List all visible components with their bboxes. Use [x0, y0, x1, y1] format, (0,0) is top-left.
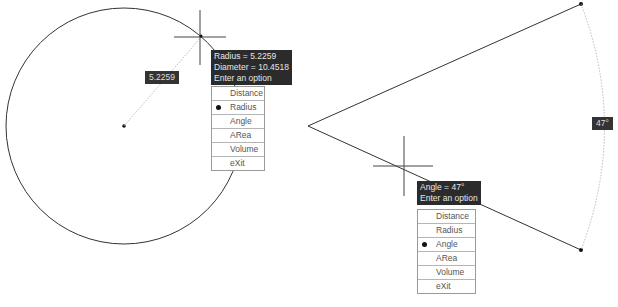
tooltip-line: Radius = 5.2259: [214, 51, 289, 62]
tooltip-line: Angle = 47°: [420, 182, 478, 193]
selected-bullet-icon: [422, 242, 427, 247]
tooltip-line: Enter an option: [214, 73, 289, 84]
selected-bullet-icon: [216, 105, 221, 110]
measure-options-menu: Distance Radius Angle ARea Volume eXit: [417, 209, 476, 294]
angle-tooltip: Angle = 47° Enter an option: [417, 181, 481, 205]
angle-dimension-label: 47°: [592, 117, 613, 130]
menu-item-distance[interactable]: Distance: [418, 210, 475, 223]
radius-dimension-label: 5.2259: [145, 71, 179, 84]
menu-item-area[interactable]: ARea: [418, 251, 475, 265]
menu-item-distance[interactable]: Distance: [212, 87, 264, 100]
menu-item-exit[interactable]: eXit: [212, 156, 264, 170]
pick-point: [200, 35, 203, 38]
menu-item-area[interactable]: ARea: [212, 128, 264, 142]
tooltip-line: Enter an option: [420, 193, 478, 204]
menu-item-radius[interactable]: Radius: [418, 223, 475, 237]
drawing-canvas[interactable]: [0, 0, 618, 307]
menu-item-angle[interactable]: Angle: [212, 114, 264, 128]
menu-item-volume[interactable]: Volume: [418, 265, 475, 279]
measure-options-menu: Distance Radius Angle ARea Volume eXit: [211, 86, 265, 171]
menu-item-angle[interactable]: Angle: [418, 237, 475, 251]
angle-upper-line: [308, 4, 581, 126]
angle-endpoint-bottom: [579, 248, 583, 252]
menu-item-exit[interactable]: eXit: [418, 279, 475, 293]
tooltip-line: Diameter = 10.4518: [214, 62, 289, 73]
radius-tooltip: Radius = 5.2259 Diameter = 10.4518 Enter…: [211, 50, 292, 85]
menu-item-volume[interactable]: Volume: [212, 142, 264, 156]
menu-item-radius[interactable]: Radius: [212, 100, 264, 114]
